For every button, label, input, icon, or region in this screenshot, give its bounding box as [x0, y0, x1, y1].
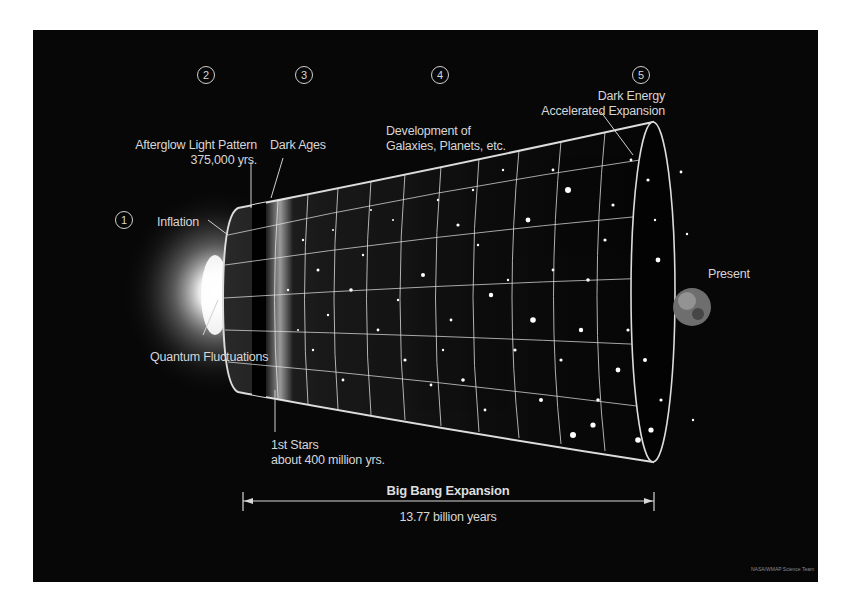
image-credit: NASA/WMAP Science Team	[751, 562, 814, 577]
scale-bar-title: Big Bang Expansion	[343, 483, 553, 498]
stage-5-badge: 5	[632, 66, 650, 84]
quantum-fluctuations-text: Quantum Fluctuations	[150, 350, 268, 364]
stage-4-badge: 4	[431, 66, 449, 84]
stage-2-badge: 2	[197, 66, 215, 84]
stage-1-badge: 1	[115, 211, 133, 229]
scale-bar-duration: 13.77 billion years	[343, 510, 553, 525]
quantum-fluctuations-label: Quantum Fluctuations	[150, 350, 230, 364]
galaxies-planets-label: Galaxies, Planets, etc.	[386, 139, 506, 154]
accelerated-expansion-label: Accelerated Expansion	[513, 104, 665, 119]
first-stars-time-label: about 400 million yrs.	[271, 453, 385, 468]
afterglow-time-label: 375,000 yrs.	[111, 153, 257, 168]
dark-ages-label: Dark Ages	[270, 138, 326, 153]
diagram-panel: 1 2 3 4 5 Inflation Quantum Fluctuations…	[33, 30, 818, 582]
afterglow-label: Afterglow Light Pattern	[111, 138, 257, 153]
first-stars-label: 1st Stars	[271, 438, 319, 453]
stage-3-badge: 3	[295, 66, 313, 84]
dark-energy-label: Dark Energy	[533, 89, 665, 104]
inflation-label: Inflation	[157, 215, 199, 230]
present-label: Present	[708, 267, 750, 282]
development-label: Development of	[386, 124, 471, 139]
universe-expansion-illustration	[33, 30, 818, 582]
